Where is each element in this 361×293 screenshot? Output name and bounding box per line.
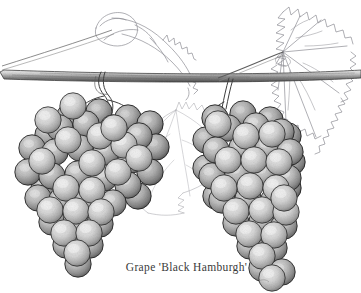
- grape-berry: [259, 121, 285, 147]
- grape-berry: [53, 175, 79, 201]
- grape-berry: [101, 115, 127, 141]
- grape-berry: [79, 150, 105, 176]
- grape-berry: [55, 127, 81, 153]
- grape-berry: [266, 149, 292, 175]
- grape-berry: [259, 265, 285, 291]
- grape-berry: [237, 173, 263, 199]
- grape-berry: [60, 93, 86, 119]
- illustration-plate: Grape 'Black Hamburgh': [0, 0, 361, 293]
- grape-berry: [271, 185, 297, 211]
- grape-berry: [241, 147, 267, 173]
- grape-illustration-svg: [0, 0, 361, 293]
- grape-berry: [211, 175, 237, 201]
- grape-berry: [233, 123, 259, 149]
- grape-berry: [223, 198, 249, 224]
- grape-berry: [215, 147, 241, 173]
- grape-berry: [205, 111, 231, 137]
- grape-berry: [35, 107, 61, 133]
- grape-berry: [126, 145, 152, 171]
- grape-berry: [29, 148, 55, 174]
- grape-berry: [64, 240, 90, 266]
- grape-berry: [37, 197, 63, 223]
